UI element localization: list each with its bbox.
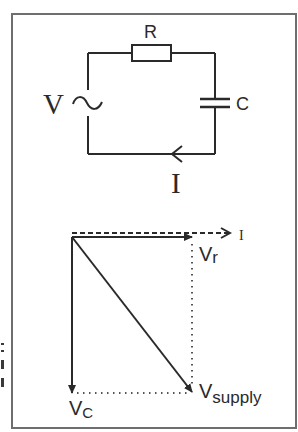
vsupply-label: Vsupply [199, 380, 262, 407]
vr-label: Vr [199, 243, 218, 267]
source-label: V [43, 88, 64, 120]
resistor-label: R [144, 22, 157, 42]
vsupply-label-sub: supply [212, 388, 262, 407]
vc-label-main: V [69, 397, 83, 419]
phasor-current-label: I [239, 228, 244, 243]
vc-label-sub: C [82, 404, 93, 421]
vr-label-sub: r [212, 248, 218, 267]
current-label: I [171, 167, 181, 199]
vsupply-phasor-arrow [72, 237, 192, 392]
capacitor-label: C [236, 94, 249, 114]
edge-marks [1, 343, 4, 387]
vsupply-label-main: V [199, 380, 213, 402]
vc-label: VC [69, 397, 93, 421]
resistor-symbol [132, 45, 171, 61]
figure-frame [12, 14, 296, 428]
rc-circuit-figure: V R C I I Vr Vsupply VC [0, 0, 298, 432]
ac-source-icon [73, 97, 102, 109]
circuit-diagram [73, 45, 230, 162]
vr-label-main: V [199, 243, 213, 265]
